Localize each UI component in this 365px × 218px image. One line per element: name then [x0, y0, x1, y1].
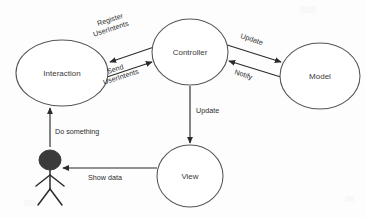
do-something-label: Do something [55, 127, 99, 136]
node-actor[interactable] [36, 150, 64, 205]
view-label: View [181, 172, 198, 181]
node-interaction[interactable]: Interaction [16, 40, 108, 106]
controller-label: Controller [173, 48, 208, 57]
diagram-svg: Interaction Controller Model View [0, 0, 365, 218]
notify-label: Notify [233, 67, 254, 81]
interaction-label: Interaction [43, 69, 80, 78]
actor-head-icon [39, 150, 61, 170]
node-view[interactable]: View [157, 145, 223, 207]
diagram-canvas: Interaction Controller Model View [0, 0, 365, 218]
update-view-label: Update [196, 106, 219, 115]
actor-arm-left-line [36, 175, 50, 186]
actor-leg-right-line [50, 189, 62, 205]
node-model[interactable]: Model [280, 43, 360, 109]
node-controller[interactable]: Controller [152, 19, 228, 85]
edge-register-userintents [110, 46, 157, 62]
actor-arm-right-line [50, 175, 64, 186]
actor-leg-left-line [38, 189, 50, 205]
show-data-label: Show data [88, 173, 122, 182]
label-register-userintents: Register UserIntents [89, 10, 130, 39]
update-model-label: Update [239, 31, 264, 47]
edge-update-model [224, 44, 281, 62]
label-update-model: Update [239, 31, 264, 47]
label-notify: Notify [233, 67, 254, 81]
model-label: Model [309, 72, 331, 81]
